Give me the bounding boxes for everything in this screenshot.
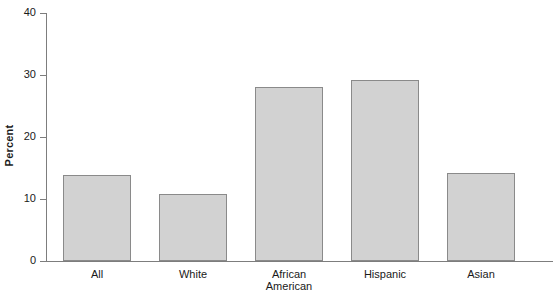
bar: [255, 87, 323, 261]
y-axis-title: Percent: [0, 0, 18, 291]
bar-chart: Percent 010203040 AllWhiteAfrican Americ…: [0, 0, 557, 291]
y-tick-label: 20: [10, 131, 36, 142]
bar: [351, 80, 419, 261]
x-axis-line: [46, 261, 553, 262]
x-category-label: White: [143, 268, 243, 280]
y-tick-label: 30: [10, 69, 36, 80]
bar: [447, 173, 515, 261]
bar: [63, 175, 131, 261]
y-tick-label: 0: [10, 255, 36, 266]
bar: [159, 194, 227, 261]
y-tick-label: 40: [10, 7, 36, 18]
plot-area: [46, 13, 553, 261]
x-category-label: African American: [239, 268, 339, 291]
y-tick-mark: [40, 261, 46, 262]
x-category-label: All: [47, 268, 147, 280]
x-category-label: Hispanic: [335, 268, 435, 280]
y-tick-label: 10: [10, 193, 36, 204]
x-category-label: Asian: [431, 268, 531, 280]
